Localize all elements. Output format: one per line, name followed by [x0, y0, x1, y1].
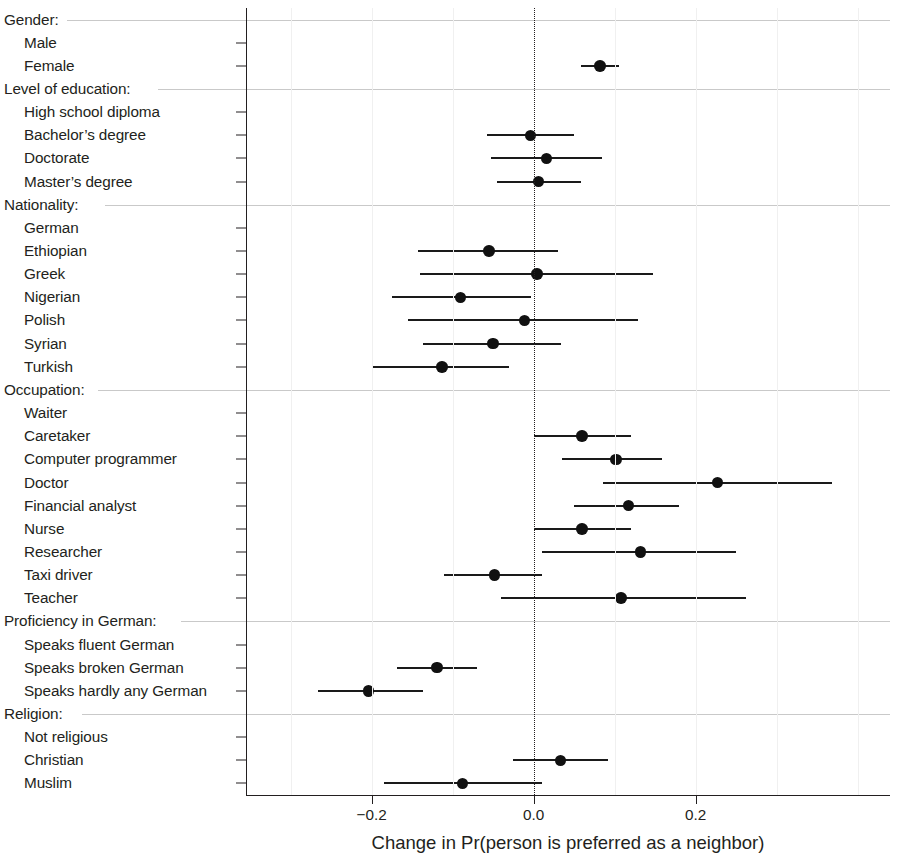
variable-label-row: Speaks fluent German — [0, 633, 246, 656]
point-estimate-nigerian — [455, 292, 467, 304]
point-estimate-polish — [519, 315, 531, 327]
point-estimate-teacher — [615, 592, 627, 604]
variable-label-row: High school diploma — [0, 101, 246, 124]
variable-label-row: Nigerian — [0, 286, 246, 309]
point-estimate-speaks-broken-german — [431, 662, 443, 674]
row-label-male: Male — [24, 35, 57, 50]
variable-label-row: Financial analyst — [0, 494, 246, 517]
group-separator-rule — [246, 714, 890, 715]
row-label-caretaker: Caretaker — [24, 429, 90, 444]
group-label-row: Nationality: — [0, 193, 246, 216]
point-estimate-computer-programmer — [610, 454, 622, 466]
estimate-plot-row — [246, 332, 890, 355]
variable-label-row: Speaks hardly any German — [0, 679, 246, 702]
estimate-plot-row — [246, 679, 890, 702]
row-label-greek: Greek — [24, 267, 65, 282]
row-label-ethiopian: Ethiopian — [24, 243, 87, 258]
group-label-row: Occupation: — [0, 378, 246, 401]
y-axis-tick — [236, 413, 246, 414]
group-label-nationality: Nationality: — [4, 197, 78, 212]
y-axis-tick — [236, 644, 246, 645]
estimate-plot-row — [246, 263, 890, 286]
variable-label-row: Male — [0, 31, 246, 54]
variable-label-row: Bachelor’s degree — [0, 124, 246, 147]
estimate-plot-row — [246, 656, 890, 679]
row-label-master-s-degree: Master’s degree — [24, 174, 132, 189]
variable-label-row: Muslim — [0, 772, 246, 795]
vertical-gridline — [615, 8, 616, 795]
variable-label-row: Syrian — [0, 332, 246, 355]
group-separator-rule — [246, 205, 890, 206]
group-separator-rule — [82, 714, 246, 715]
point-estimate-nurse — [576, 523, 588, 535]
plot-area — [246, 8, 890, 795]
y-axis-tick — [236, 783, 246, 784]
point-estimate-caretaker — [576, 430, 588, 442]
y-axis-tick — [236, 551, 246, 552]
estimate-plot-row — [246, 448, 890, 471]
y-axis-tick — [236, 366, 246, 367]
x-axis-tick — [372, 795, 373, 804]
variable-label-row: Speaks broken German — [0, 656, 246, 679]
group-separator-rule — [246, 390, 890, 391]
estimate-plot-row — [246, 726, 890, 749]
row-label-speaks-fluent-german: Speaks fluent German — [24, 637, 174, 652]
y-axis-tick — [236, 528, 246, 529]
group-separator-rule — [158, 89, 246, 90]
point-estimate-financial-analyst — [623, 500, 635, 512]
group-label-proficiency-in-german: Proficiency in German: — [4, 614, 157, 629]
group-label-level-of-education: Level of education: — [4, 81, 131, 96]
estimate-plot-row — [246, 425, 890, 448]
estimate-plot-row — [246, 772, 890, 795]
variable-label-row: Teacher — [0, 587, 246, 610]
estimate-plot-row — [246, 309, 890, 332]
y-axis-tick — [236, 690, 246, 691]
point-estimate-doctorate — [541, 153, 553, 165]
zero-reference-line — [534, 8, 535, 795]
group-separator-rule — [181, 621, 246, 622]
variable-label-row: Researcher — [0, 540, 246, 563]
row-label-speaks-hardly-any-german: Speaks hardly any German — [24, 683, 207, 698]
y-axis-tick — [236, 598, 246, 599]
group-plot-row — [246, 378, 890, 401]
y-axis-tick — [236, 42, 246, 43]
row-label-turkish: Turkish — [24, 359, 73, 374]
y-axis-tick — [236, 251, 246, 252]
y-axis-tick — [236, 112, 246, 113]
point-estimate-christian — [555, 755, 567, 767]
estimate-plot-row — [246, 31, 890, 54]
estimate-plot-row — [246, 517, 890, 540]
vertical-gridline — [696, 8, 697, 795]
y-axis-tick — [236, 760, 246, 761]
estimate-plot-row — [246, 286, 890, 309]
row-label-female: Female — [24, 58, 74, 73]
variable-label-row: Christian — [0, 749, 246, 772]
group-plot-row — [246, 193, 890, 216]
estimate-plot-row — [246, 587, 890, 610]
row-label-speaks-broken-german: Speaks broken German — [24, 660, 184, 675]
estimate-plot-row — [246, 564, 890, 587]
group-separator-rule — [246, 20, 890, 21]
point-estimate-taxi-driver — [489, 569, 501, 581]
variable-label-row: German — [0, 216, 246, 239]
variable-label-row: Ethiopian — [0, 239, 246, 262]
estimate-plot-row — [246, 147, 890, 170]
estimate-plot-row — [246, 633, 890, 656]
estimate-plot-row — [246, 355, 890, 378]
estimate-plot-row — [246, 239, 890, 262]
estimate-plot-row — [246, 216, 890, 239]
row-label-waiter: Waiter — [24, 405, 67, 420]
y-axis-tick — [236, 227, 246, 228]
variable-label-row: Nurse — [0, 517, 246, 540]
estimate-plot-row — [246, 124, 890, 147]
row-label-polish: Polish — [24, 313, 65, 328]
estimate-plot-row — [246, 494, 890, 517]
row-label-doctorate: Doctorate — [24, 151, 89, 166]
row-label-german: German — [24, 220, 79, 235]
row-label-nigerian: Nigerian — [24, 290, 80, 305]
row-label-teacher: Teacher — [24, 591, 78, 606]
x-axis-tick-label: −0.2 — [356, 806, 386, 824]
group-plot-row — [246, 8, 890, 31]
row-label-taxi-driver: Taxi driver — [24, 567, 93, 582]
row-label-christian: Christian — [24, 753, 83, 768]
